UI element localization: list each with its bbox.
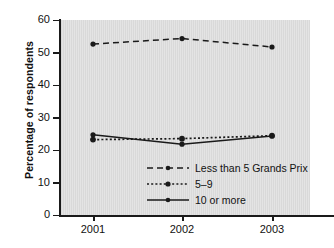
data-point: [179, 142, 184, 147]
legend-item-5-9[interactable]: 5–9: [146, 176, 308, 192]
data-point: [90, 137, 96, 143]
data-point: [269, 133, 274, 138]
legend-sample-dotted-icon: [146, 178, 190, 190]
legend-label-5-9: 5–9: [195, 179, 213, 190]
legend-item-less-than-5[interactable]: Less than 5 Grands Prix: [146, 160, 308, 176]
legend-label-less-than-5: Less than 5 Grands Prix: [195, 163, 308, 174]
data-point: [269, 44, 274, 49]
data-point: [179, 36, 184, 41]
legend-label-10-or-more: 10 or more: [195, 195, 246, 206]
data-point: [179, 136, 185, 142]
line-chart-figure: 60 50 40 30 20 10 0 2001 2002 2003 Perce…: [0, 0, 334, 248]
legend-sample-solid-icon: [146, 194, 190, 206]
data-point: [90, 132, 95, 137]
legend: Less than 5 Grands Prix 5–9 10 or more: [146, 160, 308, 208]
data-series-layer: [0, 0, 334, 248]
legend-sample-dashed-icon: [146, 162, 190, 174]
data-point: [90, 41, 95, 46]
legend-item-10-or-more[interactable]: 10 or more: [146, 192, 308, 208]
